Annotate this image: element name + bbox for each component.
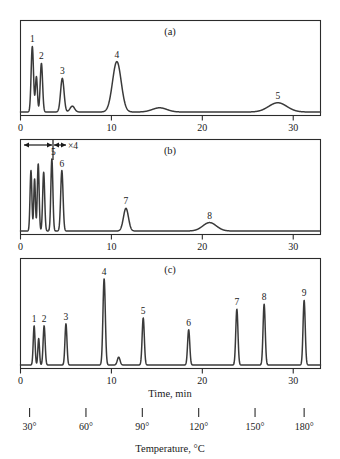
time-tick-label-a-30: 30 — [288, 122, 298, 133]
time-tick-label-b-0: 0 — [18, 241, 23, 252]
peak-label-a-4: 4 — [114, 50, 119, 60]
time-tick-label-a-20: 20 — [197, 122, 207, 133]
peak-label-a-3: 3 — [60, 66, 65, 76]
panel-a-trace — [21, 47, 321, 113]
temperature-axis: 30°60°90°120°150°180° — [23, 408, 314, 432]
peak-label-b-8: 8 — [207, 211, 212, 221]
panel-b-peak-labels: 5678 — [51, 147, 212, 221]
time-tick-label-c-20: 20 — [197, 375, 207, 386]
scale-annotation-label: ×4 — [68, 141, 78, 151]
temp-tick-label-180: 180° — [295, 421, 314, 432]
chromatogram-figure: (a) 12345 0102030 (b) ×4 5678 0102030 — [0, 0, 340, 459]
temp-tick-label-120: 120° — [189, 421, 208, 432]
time-tick-label-a-10: 10 — [106, 122, 116, 133]
panel-c-tag: (c) — [164, 264, 176, 276]
peak-label-b-7: 7 — [124, 196, 129, 206]
peak-label-c-2: 2 — [42, 314, 47, 324]
peak-label-c-4: 4 — [102, 267, 107, 277]
panel-c-time-axis: 0102030 — [18, 369, 298, 387]
peak-label-c-3: 3 — [64, 312, 69, 322]
panel-a-peak-labels: 12345 — [30, 34, 280, 100]
peak-label-b-5: 5 — [51, 147, 56, 157]
temp-tick-label-30: 30° — [23, 421, 37, 432]
peak-label-b-6: 6 — [59, 159, 64, 169]
time-tick-label-c-10: 10 — [106, 375, 116, 386]
panel-b-trace — [21, 159, 321, 231]
peak-label-c-5: 5 — [141, 306, 146, 316]
peak-label-c-7: 7 — [234, 297, 239, 307]
time-axis-title: Time, min — [148, 388, 192, 399]
panel-a-tag: (a) — [164, 26, 176, 38]
time-tick-label-b-20: 20 — [197, 241, 207, 252]
panel-c: (c) 123456789 0102030 — [18, 259, 321, 387]
time-tick-label-b-30: 30 — [288, 241, 298, 252]
panel-b-tag: (b) — [164, 145, 177, 157]
figure-svg: (a) 12345 0102030 (b) ×4 5678 0102030 — [0, 0, 340, 459]
peak-label-a-5: 5 — [275, 91, 280, 101]
peak-label-c-8: 8 — [262, 292, 267, 302]
peak-label-c-6: 6 — [186, 318, 191, 328]
panel-b: (b) ×4 5678 0102030 — [18, 140, 321, 253]
temp-tick-label-90: 90° — [135, 421, 149, 432]
panel-b-time-axis: 0102030 — [18, 235, 298, 253]
peak-label-c-1: 1 — [32, 314, 37, 324]
arrow-head-left-icon — [24, 143, 29, 148]
time-tick-label-b-10: 10 — [106, 241, 116, 252]
time-tick-label-c-30: 30 — [288, 375, 298, 386]
panel-a-time-axis: 0102030 — [18, 116, 298, 134]
peak-label-a-2: 2 — [39, 51, 44, 61]
time-tick-label-a-0: 0 — [18, 122, 23, 133]
panel-c-trace — [21, 279, 321, 365]
temp-tick-label-150: 150° — [246, 421, 265, 432]
temperature-axis-title: Temperature, °C — [135, 443, 204, 454]
time-tick-label-c-0: 0 — [18, 375, 23, 386]
temp-tick-label-60: 60° — [79, 421, 93, 432]
peak-label-c-9: 9 — [302, 288, 307, 298]
panel-a: (a) 12345 0102030 — [18, 21, 321, 134]
peak-label-a-1: 1 — [30, 34, 35, 44]
arrow-head-right-icon — [61, 143, 66, 148]
